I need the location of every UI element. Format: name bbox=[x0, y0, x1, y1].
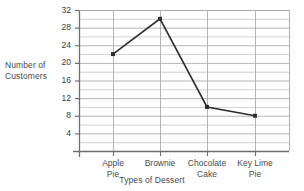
y-axis-tick-label: 4 bbox=[51, 129, 71, 138]
data-line bbox=[113, 19, 255, 116]
y-axis-title: Number of Customers bbox=[5, 60, 71, 81]
y-axis-tick-label: 28 bbox=[51, 23, 71, 32]
line-chart: 32282420161284 ApplePieBrownieChocolateC… bbox=[0, 0, 304, 191]
y-axis-tick-label: 8 bbox=[51, 111, 71, 120]
axis-lines bbox=[73, 10, 290, 157]
category-gridlines bbox=[114, 10, 256, 151]
data-point-markers bbox=[111, 17, 257, 118]
y-axis-tick-marks bbox=[75, 11, 79, 134]
y-axis-tick-label: 32 bbox=[51, 6, 71, 15]
category-label-line-1: Key Lime bbox=[227, 158, 283, 169]
y-axis-title-line-2: Customers bbox=[5, 71, 71, 82]
y-axis-tick-label: 12 bbox=[51, 94, 71, 103]
y-axis-tick-label: 24 bbox=[51, 41, 71, 50]
minor-gridlines bbox=[79, 19, 289, 151]
x-axis-title: Types of Dessert bbox=[0, 175, 304, 186]
y-axis-title-line-1: Number of bbox=[5, 60, 71, 71]
